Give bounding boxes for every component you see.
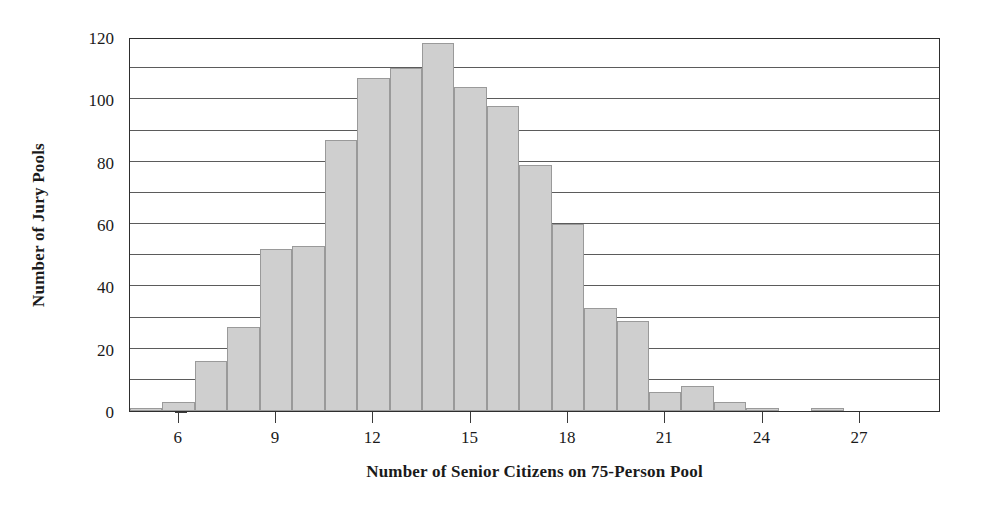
histogram-bar — [357, 78, 389, 411]
plot-area — [129, 38, 940, 412]
histogram-bar — [552, 224, 584, 411]
x-axis-tick-mark — [275, 412, 276, 423]
histogram-bar — [811, 408, 843, 411]
y-axis-title: Number of Jury Pools — [26, 38, 52, 412]
x-axis-tick-mark — [372, 412, 373, 423]
x-axis-tick-label: 18 — [542, 429, 592, 446]
histogram-bar — [162, 402, 194, 411]
histogram-bar — [681, 386, 713, 411]
x-axis-tick-mark — [859, 412, 860, 423]
y-axis-tick-label: 100 — [58, 92, 114, 109]
x-axis-title: Number of Senior Citizens on 75-Person P… — [129, 462, 940, 482]
y-axis-tick-label: 120 — [58, 30, 114, 47]
x-axis-tick-mark — [567, 412, 568, 423]
y-axis-tick-label: 20 — [58, 341, 114, 358]
x-axis-tick-mark — [470, 412, 471, 423]
y-axis-tick-label: 80 — [58, 154, 114, 171]
histogram-bar — [260, 249, 292, 411]
histogram-bar — [487, 106, 519, 411]
histogram-bar — [617, 321, 649, 411]
x-axis-tick-label: 15 — [445, 429, 495, 446]
histogram-bar — [714, 402, 746, 411]
gridline — [130, 161, 939, 162]
x-axis-tick-mark — [178, 412, 179, 423]
histogram-figure: Number of Jury Pools 020406080100120 691… — [0, 0, 993, 505]
x-axis-tick-label: 24 — [737, 429, 787, 446]
histogram-bar — [584, 308, 616, 411]
histogram-bar — [746, 408, 778, 411]
histogram-bar — [390, 68, 422, 411]
x-axis-tick-group: 69121518212427 — [129, 412, 940, 436]
gridline — [130, 98, 939, 99]
histogram-bar — [454, 87, 486, 411]
histogram-bar — [519, 165, 551, 411]
x-axis-tick-mark — [664, 412, 665, 423]
histogram-bar — [422, 43, 454, 411]
x-axis-tick-label: 21 — [639, 429, 689, 446]
histogram-bar — [325, 140, 357, 411]
x-axis-tick-mark — [762, 412, 763, 423]
y-axis-tick-label: 0 — [58, 404, 114, 421]
x-axis-tick-label: 27 — [834, 429, 884, 446]
gridline — [130, 130, 939, 131]
histogram-bar — [130, 408, 162, 411]
y-axis-tick-group: 020406080100120 — [58, 38, 114, 412]
histogram-bar — [227, 327, 259, 411]
gridline — [130, 67, 939, 68]
x-axis-tick-label: 12 — [347, 429, 397, 446]
histogram-bar — [649, 392, 681, 411]
x-axis-tick-label: 6 — [153, 429, 203, 446]
y-axis-tick-label: 40 — [58, 279, 114, 296]
y-axis-tick-label: 60 — [58, 217, 114, 234]
histogram-bar — [195, 361, 227, 411]
histogram-bar — [292, 246, 324, 411]
x-axis-tick-label: 9 — [250, 429, 300, 446]
